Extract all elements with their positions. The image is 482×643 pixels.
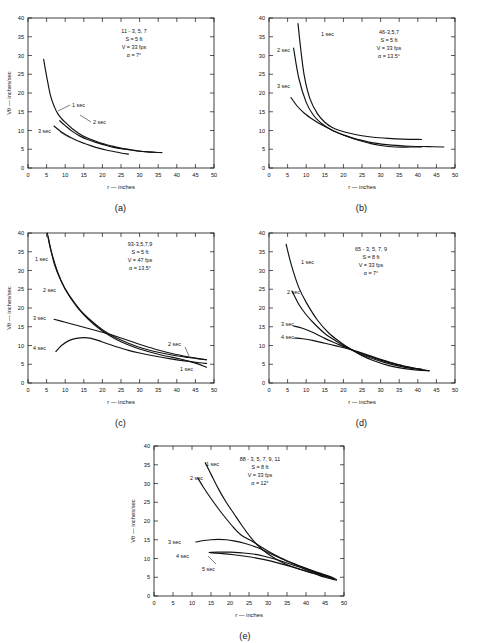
annotation-block-d: 65 - 3, 5, 7, 9S = 8 ftV = 33 fpsα = 7° bbox=[355, 246, 387, 276]
curve-1-sec bbox=[47, 233, 206, 367]
curve-label: 3 sec bbox=[33, 315, 46, 321]
svg-text:45: 45 bbox=[433, 387, 439, 393]
x-tick-labels-e: 05101520253035404550 bbox=[152, 600, 347, 606]
svg-text:25: 25 bbox=[359, 387, 365, 393]
svg-text:10: 10 bbox=[62, 387, 68, 393]
annotation-line: 11 - 3, 5, 7 bbox=[121, 28, 146, 34]
panel-caption: (e) bbox=[120, 631, 370, 641]
svg-text:0: 0 bbox=[267, 387, 270, 393]
x-axis-label: r — inches bbox=[348, 184, 376, 190]
svg-text:15: 15 bbox=[208, 600, 214, 606]
svg-text:35: 35 bbox=[396, 172, 402, 178]
svg-text:25: 25 bbox=[144, 499, 150, 505]
curve-label: 1 sec bbox=[206, 461, 219, 467]
annotation-line: α = 13.5° bbox=[129, 265, 151, 271]
svg-text:5: 5 bbox=[262, 146, 265, 152]
svg-text:35: 35 bbox=[155, 172, 161, 178]
svg-text:40: 40 bbox=[174, 387, 180, 393]
axes-a: 05101520253035404550 0510152025303540 bbox=[18, 15, 217, 178]
svg-text:20: 20 bbox=[99, 172, 105, 178]
svg-text:40: 40 bbox=[144, 443, 150, 449]
svg-text:5: 5 bbox=[21, 361, 24, 367]
chart-panel-b: 05101520253035404550 0510152025303540 r … bbox=[241, 0, 482, 215]
plot-area-a: 05101520253035404550 0510152025303540 r … bbox=[0, 0, 241, 200]
curve-2-sec bbox=[292, 291, 429, 371]
plot-area-b: 05101520253035404550 0510152025303540 r … bbox=[241, 0, 482, 200]
svg-text:40: 40 bbox=[259, 230, 265, 236]
svg-text:0: 0 bbox=[21, 380, 24, 386]
svg-text:20: 20 bbox=[18, 305, 24, 311]
svg-text:15: 15 bbox=[322, 387, 328, 393]
svg-text:15: 15 bbox=[259, 324, 265, 330]
svg-text:15: 15 bbox=[259, 109, 265, 115]
svg-text:30: 30 bbox=[144, 481, 150, 487]
svg-text:40: 40 bbox=[18, 230, 24, 236]
svg-text:10: 10 bbox=[259, 343, 265, 349]
y-axis-label: Vθ — inches/sec bbox=[6, 71, 12, 115]
annotation-line: α = 7° bbox=[364, 270, 378, 276]
y-tick-labels-a: 0510152025303540 bbox=[18, 15, 24, 171]
y-tick-labels-d: 0510152025303540 bbox=[259, 230, 265, 386]
svg-text:15: 15 bbox=[144, 537, 150, 543]
svg-text:50: 50 bbox=[452, 387, 458, 393]
svg-text:30: 30 bbox=[18, 268, 24, 274]
svg-text:20: 20 bbox=[18, 90, 24, 96]
curve-2-sec bbox=[294, 48, 444, 147]
svg-text:15: 15 bbox=[81, 387, 87, 393]
annotation-line: 88 - 3, 5, 7, 9, 11 bbox=[240, 456, 280, 462]
annotation-line: V = 33 fps bbox=[122, 44, 147, 50]
svg-text:10: 10 bbox=[18, 343, 24, 349]
x-axis-label: r — inches bbox=[235, 612, 263, 618]
svg-text:40: 40 bbox=[259, 15, 265, 21]
curve-label: 3 sec bbox=[277, 83, 290, 89]
curve-label: 3 sec bbox=[281, 321, 294, 327]
curve-1-sec bbox=[44, 59, 162, 152]
annotation-line: S = 8 ft bbox=[251, 464, 269, 470]
chart-panel-d: 05101520253035404550 0510152025303540 r … bbox=[241, 215, 482, 430]
svg-text:15: 15 bbox=[18, 109, 24, 115]
svg-text:5: 5 bbox=[286, 172, 289, 178]
curve-1-sec bbox=[205, 463, 336, 580]
annotation-line: α = 7° bbox=[127, 52, 141, 58]
svg-text:25: 25 bbox=[18, 71, 24, 77]
svg-text:35: 35 bbox=[144, 462, 150, 468]
x-tick-labels-c: 05101520253035404550 bbox=[26, 387, 217, 393]
svg-text:20: 20 bbox=[340, 172, 346, 178]
curve-label: 1 sec bbox=[321, 31, 334, 37]
annotation-line: 93-3,5,7,9 bbox=[128, 241, 152, 247]
axes-e: 05101520253035404550 0510152025303540 bbox=[144, 443, 347, 606]
svg-text:25: 25 bbox=[118, 172, 124, 178]
svg-text:20: 20 bbox=[144, 518, 150, 524]
svg-text:40: 40 bbox=[18, 15, 24, 21]
svg-text:20: 20 bbox=[227, 600, 233, 606]
svg-text:10: 10 bbox=[303, 172, 309, 178]
svg-text:0: 0 bbox=[26, 172, 29, 178]
curve-label: 2 sec bbox=[277, 47, 290, 53]
curve-label: 2 sec bbox=[190, 475, 203, 481]
curve-2-sec bbox=[60, 121, 157, 153]
annotation-line: α = 13.5° bbox=[378, 53, 400, 59]
svg-text:35: 35 bbox=[396, 387, 402, 393]
svg-text:40: 40 bbox=[303, 600, 309, 606]
y-axis-label: Vθ — inches/sec bbox=[130, 499, 136, 543]
svg-text:5: 5 bbox=[147, 574, 150, 580]
annotation-line: S = 5 ft bbox=[125, 36, 143, 42]
svg-text:25: 25 bbox=[259, 286, 265, 292]
curve-label: 1 sec bbox=[72, 102, 85, 108]
svg-text:0: 0 bbox=[262, 380, 265, 386]
annotation-line: α = 12° bbox=[251, 480, 268, 486]
panel-caption: (d) bbox=[241, 418, 482, 428]
svg-text:0: 0 bbox=[21, 165, 24, 171]
curve-label: 1 sec bbox=[301, 259, 314, 265]
annotation-block-b: 46-3,5,7S = 5 ftV = 33 fpsα = 13.5° bbox=[377, 29, 402, 59]
annotation-line: 65 - 3, 5, 7, 9 bbox=[355, 246, 387, 252]
svg-text:35: 35 bbox=[259, 249, 265, 255]
curve-label: 2 sec bbox=[287, 289, 300, 295]
svg-text:5: 5 bbox=[45, 387, 48, 393]
curve-2-sec bbox=[198, 478, 337, 580]
leader-line bbox=[208, 556, 216, 564]
x-ticks-a bbox=[28, 18, 214, 168]
annotation-block-e: 88 - 3, 5, 7, 9, 11S = 8 ftV = 33 fpsα =… bbox=[240, 456, 280, 486]
svg-text:30: 30 bbox=[259, 268, 265, 274]
y-tick-labels-e: 0510152025303540 bbox=[144, 443, 150, 599]
